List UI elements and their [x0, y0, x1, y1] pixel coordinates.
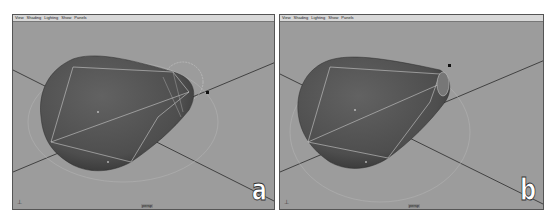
menu-view[interactable]: View: [15, 15, 24, 21]
menu-panels[interactable]: Panels: [341, 15, 353, 21]
menu-show[interactable]: Show: [61, 15, 71, 21]
menu-show[interactable]: Show: [328, 15, 338, 21]
menu-lighting[interactable]: Lighting: [311, 15, 325, 21]
collapsed-tip: [437, 72, 449, 96]
camera-label: persp: [141, 204, 153, 208]
scene-render: [280, 22, 544, 210]
axis-indicator-icon: ⊥: [17, 198, 22, 205]
panel-label-b: b: [520, 178, 535, 202]
panel-menubar: View Shading Lighting Show Panels: [280, 15, 543, 22]
panel-menubar: View Shading Lighting Show Panels: [13, 15, 274, 22]
panel-label-a: a: [252, 178, 266, 202]
axis-indicator-icon: ⊥: [284, 198, 289, 205]
camera-label: persp: [408, 204, 420, 208]
menu-shading[interactable]: Shading: [27, 15, 42, 21]
scene-render: [13, 22, 275, 210]
3d-viewport[interactable]: ⊥ persp a: [13, 22, 274, 209]
3d-viewport[interactable]: ⊥ persp b: [280, 22, 543, 209]
menu-lighting[interactable]: Lighting: [44, 15, 58, 21]
menu-shading[interactable]: Shading: [294, 15, 309, 21]
menu-view[interactable]: View: [282, 15, 291, 21]
menu-panels[interactable]: Panels: [74, 15, 86, 21]
cone-mesh: [298, 57, 450, 168]
selected-vertex-handle: [448, 64, 451, 67]
viewport-panel-b[interactable]: View Shading Lighting Show Panels: [279, 14, 544, 210]
selected-vertex-handle: [206, 91, 209, 94]
viewport-panel-a[interactable]: View Shading Lighting Show Panels: [12, 14, 275, 210]
cone-mesh: [40, 56, 193, 171]
